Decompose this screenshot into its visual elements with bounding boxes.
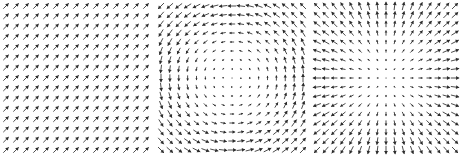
quiver-plot-divergent-field: [311, 0, 461, 156]
quiver-panel-divergent-field: [311, 0, 461, 156]
quiver-plot-rotational-field: [155, 0, 309, 156]
quiver-panel-uniform-field: [0, 0, 152, 156]
vector-field-figure: [0, 0, 461, 156]
quiver-plot-uniform-field: [0, 0, 152, 156]
quiver-panel-rotational-field: [155, 0, 309, 156]
